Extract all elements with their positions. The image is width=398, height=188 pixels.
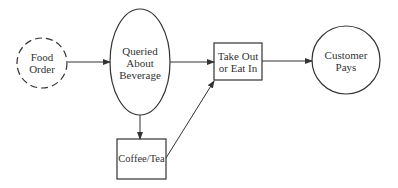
- take-out-or-eat-in-label: Take Out or Eat In: [214, 50, 262, 74]
- coffee-tea-label: Coffee/Tea: [117, 153, 166, 165]
- edge-coffee-to-takeout: [166, 81, 214, 158]
- flow-diagram: [0, 0, 398, 188]
- queried-about-beverage-label: Queried About Beverage: [110, 45, 170, 81]
- customer-pays-label: Customer Pays: [312, 49, 380, 73]
- food-order-label: Food Order: [17, 51, 67, 75]
